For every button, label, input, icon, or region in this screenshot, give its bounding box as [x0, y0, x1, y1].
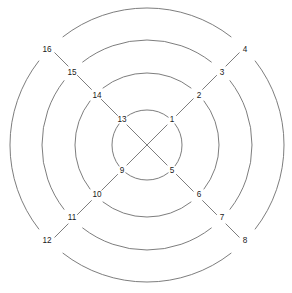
center-chords-group	[127, 125, 168, 166]
spiral-edge-7-8	[226, 224, 240, 238]
ring-arc-r1	[175, 123, 182, 166]
spiral-edge-3-4	[226, 53, 240, 67]
spiral-edge-14-15	[77, 75, 92, 90]
node-label-3: 3	[220, 68, 225, 77]
node-label-11: 11	[68, 213, 77, 222]
spiral-edge-5-6	[176, 174, 193, 191]
ring-arc-r2	[103, 73, 192, 88]
ring-arc-r2	[204, 101, 219, 190]
node-label-16: 16	[42, 45, 52, 54]
node-label-4: 4	[243, 45, 248, 54]
ring-arc-r2	[103, 202, 192, 217]
node-label-14: 14	[92, 91, 102, 100]
ring-arc-r4	[10, 61, 39, 230]
spiral-edge-10-11	[77, 200, 92, 215]
ring-arc-r3	[82, 228, 211, 250]
ring-arc-r4	[63, 8, 232, 37]
spiral-edge-11-12	[55, 224, 69, 238]
node-label-5: 5	[170, 166, 175, 175]
node-label-8: 8	[243, 236, 248, 245]
ring-arc-r1	[112, 123, 119, 166]
spiral-edge-15-16	[55, 53, 69, 67]
spiral-diagram-svg: 12345678910111213141516	[0, 0, 292, 293]
spiral-edge-1-2	[176, 98, 193, 115]
node-label-6: 6	[197, 190, 202, 199]
ring-arc-r1	[125, 173, 168, 180]
node-label-2: 2	[197, 91, 202, 100]
ring-arc-r1	[125, 110, 168, 117]
spiral-edge-2-3	[202, 75, 217, 90]
node-label-15: 15	[67, 68, 77, 77]
spiral-edge-9-10	[100, 174, 117, 191]
ring-arc-r3	[82, 40, 211, 62]
ring-arc-r4	[255, 61, 284, 230]
ring-arc-r3	[230, 80, 252, 209]
ring-arc-r4	[63, 253, 232, 282]
spiral-edge-6-7	[202, 200, 217, 215]
spiral-edge-13-14	[100, 98, 117, 115]
node-label-1: 1	[170, 115, 175, 124]
node-label-9: 9	[120, 166, 125, 175]
node-label-13: 13	[117, 115, 127, 124]
spiral-diagram-canvas: 12345678910111213141516	[0, 0, 292, 293]
node-label-10: 10	[92, 190, 102, 199]
ring-arc-r3	[42, 80, 64, 209]
ring-arc-r2	[75, 101, 90, 190]
node-label-12: 12	[42, 236, 52, 245]
node-label-7: 7	[220, 213, 225, 222]
node-labels-group: 12345678910111213141516	[42, 45, 247, 245]
